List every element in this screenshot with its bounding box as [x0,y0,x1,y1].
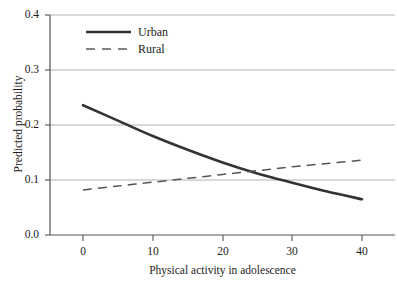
x-tick-label-40: 40 [347,245,377,257]
y-axis-label: Predicted probability [12,54,24,194]
series-line-urban [83,105,362,199]
y-tick-label-0.4: 0.4 [9,8,39,20]
x-axis-label: Physical activity in adolescence [50,264,395,276]
x-tick-label-30: 30 [277,245,307,257]
legend-label-urban: Urban [138,25,168,40]
x-tick-marks [83,235,362,241]
x-tick-label-0: 0 [68,245,98,257]
x-tick-label-20: 20 [208,245,238,257]
series-line-rural [83,160,362,190]
y-tick-marks [45,15,50,235]
y-tick-label-0.0: 0.0 [9,228,39,240]
chart-plot-area [0,0,397,285]
x-tick-label-10: 10 [138,245,168,257]
legend-samples [86,32,131,49]
legend-label-rural: Rural [138,42,165,57]
gridlines [50,15,395,180]
chart-figure: 0.4 0.3 0.2 0.1 0.0 0 10 20 30 40 Predic… [0,0,397,285]
